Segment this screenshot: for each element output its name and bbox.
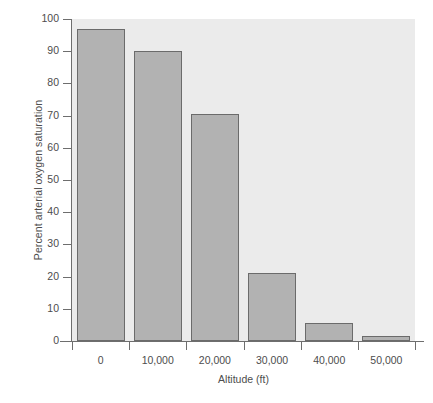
y-tick-label-text: 40 [33,206,59,217]
y-tick-label: 100 [33,13,59,25]
y-tick-mark [63,309,71,310]
x-tick-mark [244,342,245,350]
y-tick-label-text: 80 [33,77,59,88]
y-tick-mark [63,51,71,52]
bar [362,336,410,341]
y-tick-mark [63,341,71,342]
y-tick-label-text: 20 [33,271,59,282]
y-tick-label: 90 [33,45,59,57]
bar-chart-figure: Percent arterial oxygen saturation 01020… [0,0,433,403]
y-tick-label: 80 [33,77,59,89]
x-tick-mark [415,342,416,350]
y-tick-label-text: 0 [33,335,59,346]
y-tick-label-text: 10 [33,303,59,314]
y-tick-label-text: 50 [33,174,59,185]
y-tick-label-text: 60 [33,142,59,153]
x-tick-mark [186,342,187,350]
x-tick-mark [301,342,302,350]
y-tick-mark [63,116,71,117]
x-axis-line [60,341,424,342]
bar [305,323,353,341]
y-tick-label-text: 90 [33,45,59,56]
x-tick-label: 50,000 [351,355,421,366]
bar [134,51,182,341]
y-tick-label: 60 [33,142,59,154]
x-tick-mark [129,342,130,350]
y-tick-label: 20 [33,271,59,283]
y-tick-label: 70 [33,110,59,122]
y-tick-label-text: 100 [33,13,59,24]
y-tick-label: 10 [33,303,59,315]
y-tick-label-text: 30 [33,238,59,249]
y-tick-mark [63,212,71,213]
y-axis-line [71,19,72,342]
y-tick-label: 50 [33,174,59,186]
y-tick-mark [63,244,71,245]
y-tick-mark [63,19,71,20]
y-tick-mark [63,277,71,278]
x-tick-mark [72,342,73,350]
bar [191,114,239,341]
bar [248,273,296,341]
x-axis-title: Altitude (ft) [72,373,415,385]
y-tick-label: 40 [33,206,59,218]
y-tick-mark [63,180,71,181]
bar [77,29,125,341]
y-tick-label-text: 70 [33,110,59,121]
y-tick-label: 0 [33,335,59,347]
x-tick-mark [358,342,359,350]
y-tick-mark [63,83,71,84]
y-tick-label: 30 [33,238,59,250]
y-tick-mark [63,148,71,149]
